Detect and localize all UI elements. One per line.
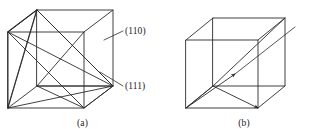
vector-111-arrow [186,74,235,108]
plane-construction-line-5 [37,32,84,86]
cube-edge-connector-top-right [84,10,113,32]
vector-110-arrow [213,86,258,108]
reference-line-back-diagonal [213,18,285,86]
plane-construction-line-3 [8,10,37,32]
cube-edge-connector-top-left [186,18,213,40]
cube-diagram-planes [0,0,165,129]
plane-construction-line-6 [37,86,84,108]
cube-diagram-directions [165,0,323,129]
plane-construction-line-1 [8,10,37,108]
figure-container: (110) (111) (a) [0,0,323,129]
panel-b-caption: (b) [165,118,323,128]
panel-b-directions: [111] [110] (b) [165,0,323,129]
panel-a-caption: (a) [0,118,165,128]
plane-111-label: (111) [125,81,145,91]
cube-edge-front-face [186,40,258,108]
cube-edge-connector-bottom-right [258,86,285,108]
plane-110-label: (110) [125,26,146,36]
panel-a-planes: (110) (111) (a) [0,0,165,129]
leader-line-plane-110 [104,31,123,40]
